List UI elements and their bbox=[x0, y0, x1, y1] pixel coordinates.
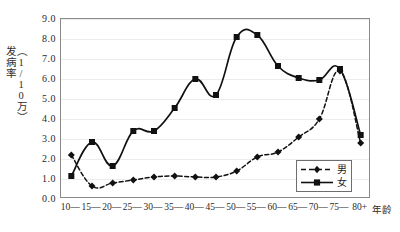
data-point-女-40— bbox=[192, 76, 198, 82]
legend-item-male[interactable]: 男 bbox=[300, 163, 347, 176]
data-point-女-20— bbox=[110, 163, 116, 169]
x-axis-tick-label: 70— bbox=[309, 202, 328, 212]
y-axis-tick-labels: 0.01.02.03.04.05.06.07.08.09.0 bbox=[22, 0, 56, 232]
y-axis-tick-label: 2.0 bbox=[22, 153, 56, 164]
data-point-男-10— bbox=[68, 152, 75, 159]
data-point-女-15— bbox=[89, 139, 95, 145]
data-point-女-60— bbox=[275, 63, 281, 69]
x-axis-tick-label: 15— bbox=[82, 202, 101, 212]
data-point-男-30— bbox=[151, 174, 158, 181]
x-axis-tick-label: 40— bbox=[185, 202, 204, 212]
x-axis-tick-label: 25— bbox=[123, 202, 142, 212]
y-axis-tick-label: 7.0 bbox=[22, 53, 56, 64]
y-axis-title-main: 发病率 bbox=[4, 46, 16, 79]
data-point-女-70— bbox=[316, 77, 322, 83]
x-axis-tick-label: 20— bbox=[102, 202, 121, 212]
data-point-男-20— bbox=[109, 180, 116, 187]
y-axis-tick-label: 5.0 bbox=[22, 93, 56, 104]
data-point-男-80+ bbox=[357, 140, 364, 147]
x-axis-tick-label: 45— bbox=[206, 202, 225, 212]
x-axis-tick-label: 55— bbox=[247, 202, 266, 212]
data-point-女-55— bbox=[254, 32, 260, 38]
x-axis-tick-label: 75— bbox=[330, 202, 349, 212]
x-axis-tick-label: 65— bbox=[288, 202, 307, 212]
data-point-男-55— bbox=[254, 154, 261, 161]
solid-square-line-icon bbox=[300, 177, 334, 188]
legend-label-male: 男 bbox=[337, 164, 347, 175]
data-point-女-80+ bbox=[358, 132, 364, 138]
series-line-女 bbox=[71, 29, 360, 176]
x-axis-title: 年龄 bbox=[372, 202, 392, 216]
legend-item-female[interactable]: 女 bbox=[300, 176, 347, 189]
y-axis-tick-label: 0.0 bbox=[22, 193, 56, 204]
y-axis-tick-label: 8.0 bbox=[22, 33, 56, 44]
data-point-女-25— bbox=[130, 128, 136, 134]
data-point-女-45— bbox=[213, 92, 219, 98]
x-axis-tick-label: 35— bbox=[164, 202, 183, 212]
y-axis-tick-label: 1.0 bbox=[22, 173, 56, 184]
data-point-女-10— bbox=[68, 173, 74, 179]
data-point-男-40— bbox=[192, 174, 199, 181]
y-axis-tick-label: 3.0 bbox=[22, 133, 56, 144]
data-point-女-35— bbox=[172, 105, 178, 111]
dashed-diamond-line-icon bbox=[300, 164, 334, 175]
line-chart: 发病率 （1/10万） 0.01.02.03.04.05.06.07.08.09… bbox=[0, 0, 400, 232]
x-axis-tick-label: 50— bbox=[226, 202, 245, 212]
data-point-女-75— bbox=[337, 66, 343, 72]
x-axis-tick-label: 60— bbox=[268, 202, 287, 212]
y-axis-tick-label: 9.0 bbox=[22, 13, 56, 24]
x-axis-tick-label: 10— bbox=[61, 202, 80, 212]
legend: 男 女 bbox=[296, 160, 352, 192]
data-point-男-60— bbox=[275, 149, 282, 156]
data-point-女-65— bbox=[296, 75, 302, 81]
x-axis-tick-label: 30— bbox=[144, 202, 163, 212]
x-axis-tick-label: 80+ bbox=[352, 202, 367, 212]
data-point-女-30— bbox=[151, 128, 157, 134]
legend-label-female: 女 bbox=[337, 177, 347, 188]
y-axis-tick-label: 6.0 bbox=[22, 73, 56, 84]
x-axis-tick-labels: 10—15—20—25—30—35—40—45—50—55—60—65—70—7… bbox=[60, 200, 370, 220]
y-axis-tick-label: 4.0 bbox=[22, 113, 56, 124]
data-point-女-50— bbox=[234, 34, 240, 40]
data-point-男-50— bbox=[233, 168, 240, 175]
data-point-男-35— bbox=[171, 173, 178, 180]
data-point-男-45— bbox=[213, 174, 220, 181]
data-point-男-25— bbox=[130, 177, 137, 184]
